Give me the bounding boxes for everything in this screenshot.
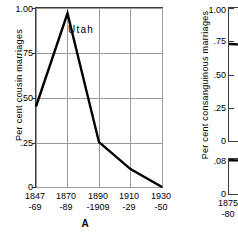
xtick-line1: 1910 <box>119 191 139 201</box>
panel-a: Per cent cousin marriages 1.00 .75 .50 <box>0 0 170 240</box>
ytick-label-1_00: 1.00 <box>15 5 33 14</box>
ytick-label-b-1_00: 1.00 <box>208 6 226 15</box>
gridline-x-1930-50 <box>162 8 163 187</box>
xtick-line1: 1930 <box>151 191 171 201</box>
panel-b-y-axis-label: Per cent consanguinous marriages <box>200 0 210 180</box>
panel-a-plot-area: 1.00 .75 .50 .25 0 <box>35 7 163 188</box>
xtick-label-b-1875-80: 1875 -80 <box>205 198 238 220</box>
ytick-label-b-0_75: .75 <box>213 37 226 46</box>
xtick-line1: 1890 <box>88 191 108 201</box>
panel-a-annotation-utah: Utah <box>68 24 94 35</box>
gridline-y-0 <box>36 187 162 188</box>
ytick-label-b-0_25: .25 <box>213 104 226 113</box>
panel-b: Per cent consanguinous marriages 1.00 .7… <box>170 0 238 240</box>
xtick-line2: -80 <box>205 209 238 220</box>
panel-b-plot-area-lower: .08 0 <box>228 158 238 195</box>
ytick-label-0_75: .75 <box>20 49 33 58</box>
ytick-label-0_25: .25 <box>20 139 33 148</box>
ytick-label-b-0_50: .50 <box>213 71 226 80</box>
panel-b-data-line-upper <box>229 8 238 141</box>
figure-consanguinity-trends: Per cent cousin marriages 1.00 .75 .50 <box>0 0 238 240</box>
ytick-mark-b-lower-0 <box>229 194 234 195</box>
xtick-line1: 1847 <box>25 191 45 201</box>
panel-b-plot-area-upper: 1.00 .75 .50 .25 0 <box>228 7 238 142</box>
panel-a-data-line <box>36 8 162 187</box>
panel-b-data-line-lower <box>229 159 238 194</box>
ytick-label-b-0_08: .08 <box>213 157 226 166</box>
ytick-label-b-0: 0 <box>221 137 226 146</box>
ytick-label-0_50: .50 <box>20 94 33 103</box>
ytick-mark-b-0 <box>229 141 234 142</box>
xtick-line1: 1875 <box>218 198 238 208</box>
xtick-line1: 1870 <box>56 191 76 201</box>
panel-a-caption: A <box>0 218 170 229</box>
